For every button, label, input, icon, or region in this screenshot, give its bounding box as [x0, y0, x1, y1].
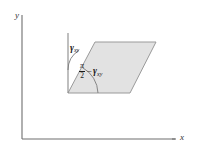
shear-angle-label: γxy [70, 44, 79, 54]
interior-gamma-subscript: xy [97, 71, 102, 77]
minus-operator: − [85, 66, 93, 76]
interior-angle-label: π 2 −γxy [79, 62, 102, 80]
y-axis-label: y [15, 11, 19, 20]
gamma-subscript: xy [74, 47, 79, 53]
shear-strain-figure: y x γxy π 2 −γxy [0, 0, 198, 154]
x-axis-label: x [180, 133, 184, 142]
